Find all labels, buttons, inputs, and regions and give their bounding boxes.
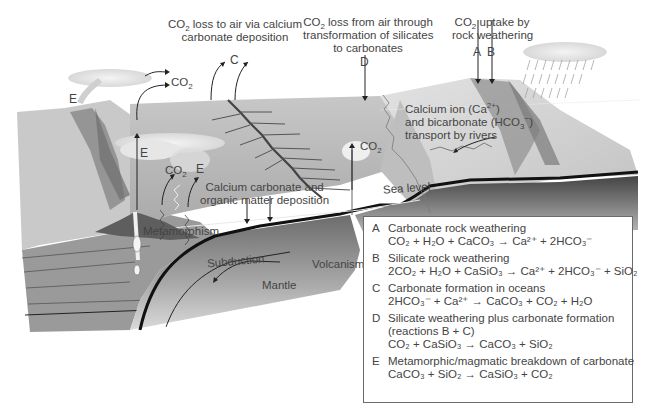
legend-item-b: B Silicate rock weathering 2CO₂ + H₂O + …: [372, 252, 624, 278]
label-letter-b: B: [487, 45, 495, 59]
label-river-transport: Calcium ion (Ca2+) and bicarbonate (HCO3…: [405, 103, 533, 142]
legend-equation: 2HCO₃⁻ + Ca²⁺ → CaCO₃ + CO₂ + H₂O: [388, 295, 624, 308]
legend-title: Metamorphic/magmatic breakdown of carbon…: [388, 355, 634, 368]
legend-subtitle: (reactions B + C): [388, 325, 624, 338]
label-co2-loss-calcium-carbonate: CO2 loss to air via calcium carbonate de…: [165, 18, 305, 44]
label-co2-loss-silicates: CO2 loss from air through transformation…: [303, 16, 433, 55]
legend-key: D: [372, 312, 388, 351]
label-letter-d: D: [360, 55, 369, 69]
label-co2-mid: CO2: [165, 164, 187, 177]
label-co2-top: CO2: [171, 76, 193, 89]
label-metamorphism: Metamorphism: [143, 225, 219, 238]
legend-key: A: [372, 222, 388, 248]
legend-equation: CO₂ + H₂O + CaCO₃ → Ca²⁺ + 2HCO₃⁻: [388, 235, 624, 248]
legend-equation: CaCO₃ + SiO₂ → CaSiO₃ + CO₂: [388, 368, 634, 381]
legend-equation: CO₂ + CaSiO₃ → CaCO₃ + SiO₂: [388, 338, 624, 351]
legend-title: Carbonate formation in oceans: [388, 282, 624, 295]
label-e-mid: E: [140, 146, 148, 160]
legend-key: E: [372, 355, 388, 381]
label-volcanism: Volcanism: [312, 258, 364, 271]
label-co2-volcano: CO2: [360, 140, 382, 153]
legend-item-c: C Carbonate formation in oceans 2HCO₃⁻ +…: [372, 282, 624, 308]
label-co2-uptake-weathering: CO2 uptake by rock weathering: [452, 16, 532, 42]
label-deposition: Calcium carbonate and organic matter dep…: [200, 181, 329, 207]
label-e-top: E: [69, 92, 77, 106]
legend-key: B: [372, 252, 388, 278]
legend-equation: 2CO₂ + H₂O + CaSiO₃ → Ca²⁺ + 2HCO₃⁻ + Si…: [388, 265, 638, 278]
label-e-small: E: [196, 162, 204, 176]
legend-item-a: A Carbonate rock weathering CO₂ + H₂O + …: [372, 222, 624, 248]
legend-item-e: E Metamorphic/magmatic breakdown of carb…: [372, 355, 624, 381]
label-letter-c: C: [230, 53, 239, 67]
reaction-legend: A Carbonate rock weathering CO₂ + H₂O + …: [363, 216, 633, 403]
label-letter-a: A: [473, 45, 481, 59]
legend-title: Silicate rock weathering: [388, 252, 638, 265]
label-mantle: Mantle: [262, 279, 297, 292]
legend-key: C: [372, 282, 388, 308]
legend-title: Silicate weathering plus carbonate forma…: [388, 312, 624, 325]
legend-title: Carbonate rock weathering: [388, 222, 624, 235]
legend-item-d: D Silicate weathering plus carbonate for…: [372, 312, 624, 351]
